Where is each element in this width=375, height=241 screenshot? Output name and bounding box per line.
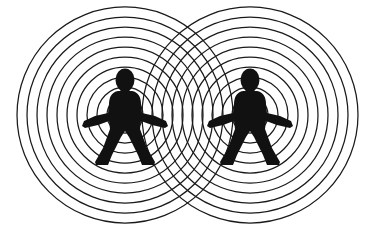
- background: [0, 0, 375, 241]
- wave-interference-illustration: Two-source concentric wave interference …: [0, 0, 375, 241]
- illustration-canvas: Two-source concentric wave interference …: [0, 0, 375, 241]
